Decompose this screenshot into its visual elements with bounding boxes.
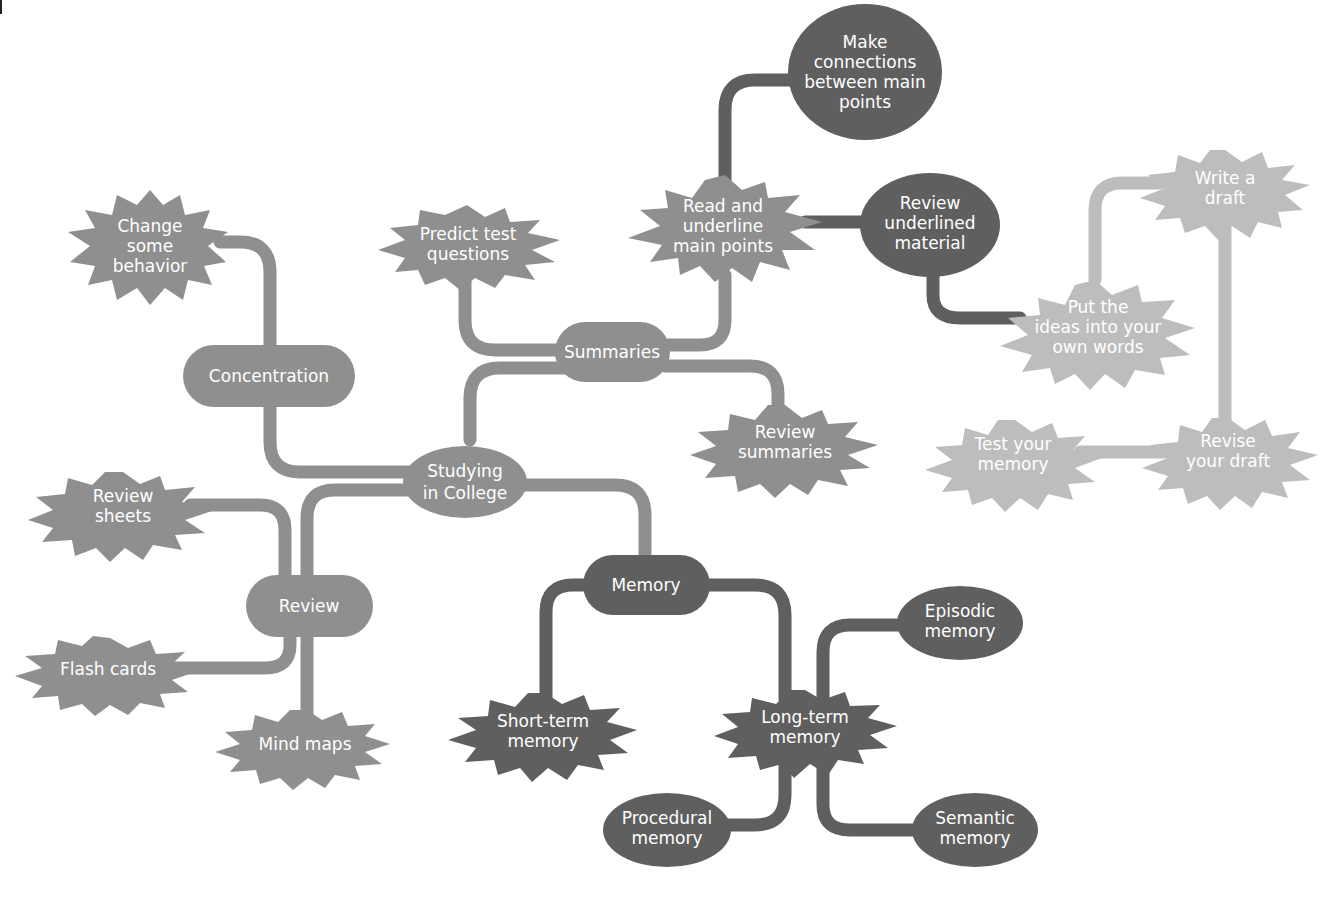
node-label: memory — [977, 454, 1048, 474]
node-label: Concentration — [209, 366, 329, 386]
node-label: Procedural — [622, 808, 712, 828]
node-read-and-underline[interactable]: Read and underline main points — [628, 175, 822, 282]
node-label: Make — [843, 32, 888, 52]
node-flash-cards[interactable]: Flash cards — [15, 636, 195, 716]
node-label: in College — [423, 483, 507, 503]
node-label: memory — [507, 731, 578, 751]
node-make-connections[interactable]: Make connections between main points — [788, 4, 942, 140]
mind-map: Studying in College Concentration Change… — [0, 0, 1340, 899]
node-test-your-memory[interactable]: Test your memory — [925, 420, 1102, 512]
node-label: Studying — [427, 461, 502, 481]
node-write-a-draft[interactable]: Write a draft — [1140, 150, 1310, 240]
node-review-summaries[interactable]: Review summaries — [690, 405, 878, 498]
node-label: points — [839, 92, 891, 112]
edge-concentration-change-behavior — [220, 242, 270, 360]
node-label: Summaries — [564, 342, 660, 362]
node-predict-test-questions[interactable]: Predict test questions — [378, 205, 560, 290]
node-label: Test your — [973, 434, 1051, 454]
node-label: connections — [814, 52, 917, 72]
node-label: sheets — [95, 506, 151, 526]
node-short-term-memory[interactable]: Short-term memory — [448, 693, 637, 782]
node-label: Memory — [611, 575, 680, 595]
edge-center-review — [307, 490, 410, 580]
node-label: Semantic — [935, 808, 1015, 828]
node-label: Revise — [1200, 431, 1256, 451]
edge-summaries-predict — [465, 270, 565, 350]
node-label: Review — [93, 486, 154, 506]
node-label: Put the — [1068, 297, 1129, 317]
edge-center-memory — [520, 485, 645, 560]
node-label: underlined — [884, 213, 975, 233]
node-label: behavior — [113, 256, 188, 276]
edge-memory-long-term — [705, 585, 785, 700]
node-memory[interactable]: Memory — [583, 555, 710, 615]
node-label: Write a — [1195, 168, 1256, 188]
node-label: material — [895, 233, 966, 253]
node-label: Short-term — [497, 711, 589, 731]
node-label: some — [127, 236, 173, 256]
node-label: own words — [1052, 337, 1143, 357]
node-revise-your-draft[interactable]: Revise your draft — [1142, 418, 1318, 510]
node-label: memory — [769, 727, 840, 747]
edge-long-term-procedural — [720, 765, 785, 825]
node-label: memory — [631, 828, 702, 848]
node-label: Read and — [683, 196, 763, 216]
node-label: Episodic — [925, 601, 995, 621]
node-label: Review — [279, 596, 340, 616]
node-label: Predict test — [420, 224, 517, 244]
node-label: between main — [804, 72, 925, 92]
node-label: memory — [939, 828, 1010, 848]
node-studying-in-college[interactable]: Studying in College — [403, 446, 527, 518]
node-change-some-behavior[interactable]: Change some behavior — [68, 190, 228, 305]
node-semantic-memory[interactable]: Semantic memory — [912, 793, 1038, 867]
node-summaries[interactable]: Summaries — [555, 322, 670, 382]
edge-memory-short-term — [546, 585, 590, 700]
node-episodic-memory[interactable]: Episodic memory — [897, 586, 1023, 660]
node-procedural-memory[interactable]: Procedural memory — [603, 793, 731, 867]
node-label: questions — [427, 244, 509, 264]
node-label: Mind maps — [259, 734, 352, 754]
node-label: Review — [755, 422, 816, 442]
node-label: Flash cards — [60, 659, 156, 679]
node-mind-maps[interactable]: Mind maps — [215, 710, 390, 790]
edge-review-sheets — [190, 505, 285, 580]
node-long-term-memory[interactable]: Long-term memory — [714, 690, 897, 778]
node-label: your draft — [1186, 451, 1271, 471]
edge-read-make-connections — [725, 80, 790, 195]
node-review[interactable]: Review — [246, 575, 373, 637]
node-label: underline — [683, 216, 763, 236]
node-label: Long-term — [761, 707, 849, 727]
node-label: summaries — [738, 442, 832, 462]
node-review-sheets[interactable]: Review sheets — [28, 472, 215, 562]
node-label: ideas into your — [1035, 317, 1162, 337]
node-label: main points — [673, 236, 773, 256]
node-label: Review — [900, 193, 961, 213]
edge-center-summaries — [470, 368, 565, 440]
node-review-underlined-material[interactable]: Review underlined material — [860, 173, 1000, 277]
node-concentration[interactable]: Concentration — [183, 345, 355, 407]
edge-summaries-review-summaries — [665, 366, 778, 420]
edge-summaries-read — [665, 275, 725, 345]
edge-long-term-semantic — [823, 765, 915, 830]
node-label: Change — [117, 216, 182, 236]
node-label: memory — [924, 621, 995, 641]
node-label: draft — [1205, 188, 1246, 208]
nodes: Studying in College Concentration Change… — [15, 4, 1318, 867]
node-put-ideas-own-words[interactable]: Put the ideas into your own words — [1000, 280, 1195, 390]
edge-long-term-episodic — [823, 625, 905, 700]
edge-review-underlined-put-ideas — [933, 270, 1020, 318]
